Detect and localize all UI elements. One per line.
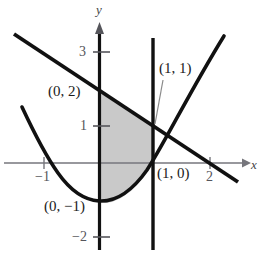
point-label-1-1: (1, 1) bbox=[159, 61, 192, 76]
y-tick-label-neg2: −2 bbox=[72, 230, 87, 244]
y-axis-label: y bbox=[96, 3, 102, 16]
graph-figure: y x 3 1 −2 −1 2 (0, 2) (1, 1) (1, 0) (0,… bbox=[0, 0, 259, 258]
point-label-0-2: (0, 2) bbox=[48, 84, 81, 99]
coordinate-plot bbox=[0, 0, 259, 258]
x-axis-label: x bbox=[251, 158, 257, 171]
y-tick-label-1: 1 bbox=[80, 119, 87, 133]
y-tick-label-3: 3 bbox=[79, 45, 86, 59]
x-tick-label-2: 2 bbox=[206, 170, 213, 184]
point-label-1-0: (1, 0) bbox=[157, 166, 190, 181]
y-axis-arrow bbox=[95, 22, 104, 34]
x-axis-arrow bbox=[242, 159, 251, 168]
leader-line-point-1-1 bbox=[155, 80, 163, 124]
x-tick-label-neg1: −1 bbox=[35, 170, 50, 184]
point-label-0-neg1: (0, −1) bbox=[44, 199, 85, 214]
shaded-region-fill bbox=[99, 88, 153, 203]
